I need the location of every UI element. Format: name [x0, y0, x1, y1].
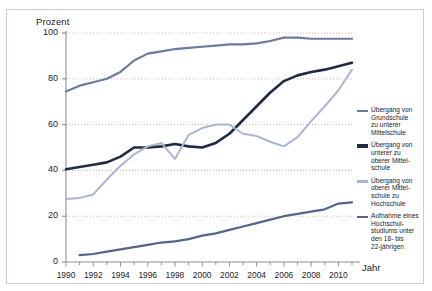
legend-swatch-icon — [357, 216, 368, 219]
y-tick-label: 60 — [32, 119, 58, 129]
y-tick-label: 80 — [32, 73, 58, 83]
y-tick-label: 0 — [32, 256, 58, 266]
x-tick-label: 2010 — [321, 270, 355, 280]
legend-swatch-icon — [357, 110, 368, 113]
legend-label: Übergang von Grundschule zu unterer Mitt… — [371, 106, 412, 136]
legend-label: Übergang von unterer zu oberer Mittel- s… — [371, 141, 412, 171]
legend-item-3[interactable]: Übergang von oberer Mittel- schule zu Ho… — [357, 177, 429, 207]
series-line-3 — [66, 70, 352, 199]
y-tick-label: 20 — [32, 210, 58, 220]
series-line-4 — [80, 202, 352, 255]
chart-legend: Übergang von Grundschule zu unterer Mitt… — [357, 106, 429, 255]
legend-swatch-icon — [357, 180, 368, 183]
legend-item-1[interactable]: Übergang von Grundschule zu unterer Mitt… — [357, 106, 429, 136]
y-tick-label: 40 — [32, 164, 58, 174]
legend-label: Aufnahme eines Hochschul- studiums unter… — [371, 212, 419, 250]
legend-label: Übergang von oberer Mittel- schule zu Ho… — [371, 177, 412, 207]
series-line-1 — [66, 38, 352, 92]
legend-item-4[interactable]: Aufnahme eines Hochschul- studiums unter… — [357, 212, 429, 250]
legend-item-2[interactable]: Übergang von unterer zu oberer Mittel- s… — [357, 141, 429, 171]
y-tick-label: 100 — [32, 27, 58, 37]
legend-swatch-icon — [357, 144, 368, 148]
